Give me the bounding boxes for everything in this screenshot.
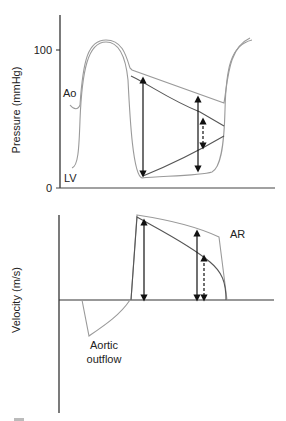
ao-diastolic-decline bbox=[131, 76, 224, 126]
aortic-outflow-label-line1: Aortic bbox=[90, 339, 119, 351]
aortic-outflow-label-line2: outflow bbox=[87, 353, 122, 365]
lv-pressure-curve bbox=[72, 40, 252, 178]
ar-envelope-dark bbox=[131, 217, 226, 300]
velocity-axis-label: Velocity (m/s) bbox=[10, 267, 22, 333]
pressure-axis-label: Pressure (mmHg) bbox=[10, 67, 22, 154]
velocity-panel: Velocity (m/s) AR Aortic outflow bbox=[10, 215, 274, 413]
tick-label-100: 100 bbox=[34, 44, 52, 56]
ar-envelope-light bbox=[131, 215, 227, 300]
ar-label: AR bbox=[230, 228, 245, 240]
pressure-panel: 100 0 Pressure (mmHg) Ao LV bbox=[10, 15, 275, 194]
aortic-pressure-curve bbox=[70, 38, 250, 109]
lv-label: LV bbox=[64, 172, 77, 184]
lv-diastolic-rise bbox=[143, 136, 224, 176]
pressure-velocity-diagram: 100 0 Pressure (mmHg) Ao LV Velocity (m/… bbox=[0, 0, 286, 421]
ao-label: Ao bbox=[63, 87, 76, 99]
aortic-outflow-curve bbox=[82, 300, 130, 336]
tick-label-0: 0 bbox=[46, 182, 52, 194]
